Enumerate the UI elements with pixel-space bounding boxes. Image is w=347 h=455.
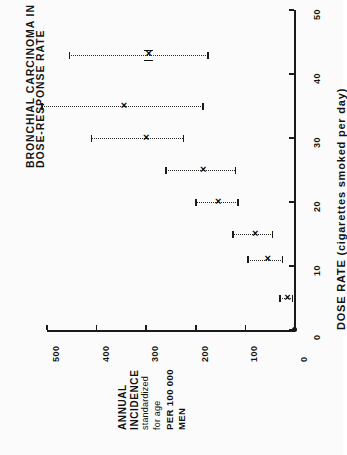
incidence-axis-title-line-6: MEN	[176, 408, 187, 430]
error-cap-lower	[165, 167, 167, 174]
dose-tick-label-0: 0	[312, 334, 322, 340]
incidence-tick-500	[46, 325, 48, 330]
error-cap-upper	[235, 167, 237, 174]
error-cap-lower	[232, 231, 234, 238]
incidence-tick-label-100: 100	[249, 345, 259, 362]
incidence-tick-label-200: 200	[200, 345, 210, 362]
dose-rate-axis-title: DOSE RATE (cigarettes smoked per day)	[335, 88, 347, 330]
incidence-tick-label-500: 500	[51, 345, 61, 362]
error-cap-lower	[41, 103, 43, 110]
dose-tick-10	[289, 265, 294, 267]
incidence-axis-line	[47, 330, 295, 332]
dose-tick-label-20: 20	[312, 201, 322, 212]
incidence-tick-label-400: 400	[101, 345, 111, 362]
error-cap-upper	[202, 103, 204, 110]
dose-tick-40	[289, 73, 294, 75]
dose-tick-50	[289, 9, 294, 11]
incidence-tick-200	[195, 325, 197, 330]
error-cap-lower	[195, 199, 197, 206]
error-bar	[69, 55, 208, 56]
dose-tick-30	[289, 137, 294, 139]
data-point-marker	[284, 294, 291, 301]
incidence-axis-title-line-1: ANNUAL	[117, 384, 128, 430]
data-point-marker	[143, 134, 150, 141]
incidence-axis-title-line-4: for age	[152, 401, 162, 430]
dose-tick-0	[289, 329, 294, 331]
error-cap-upper	[237, 199, 239, 206]
data-point-marker	[264, 255, 271, 262]
data-point-marker	[200, 166, 207, 173]
figure-title-line-2: BRONCHIAL CARCINOMA IN CIGARETTE SMOKERS	[24, 0, 36, 168]
data-point-marker	[145, 50, 152, 57]
error-cap-lower	[69, 52, 71, 59]
incidence-tick-label-300: 300	[150, 345, 160, 362]
dose-tick-label-40: 40	[312, 73, 322, 84]
incidence-tick-400	[96, 325, 98, 330]
incidence-axis-title-line-2: INCIDENCE	[129, 370, 140, 430]
dose-rate-axis-line	[294, 10, 296, 331]
dose-tick-label-10: 10	[312, 265, 322, 276]
dose-tick-label-30: 30	[312, 137, 322, 148]
incidence-tick-label-0: 0	[299, 356, 309, 362]
error-cap-upper	[207, 52, 209, 59]
error-cap-lower	[247, 256, 249, 263]
dose-tick-label-50: 50	[312, 9, 322, 20]
data-point-marker	[215, 198, 222, 205]
data-point-marker	[252, 230, 259, 237]
incidence-tick-100	[245, 325, 247, 330]
error-cap-upper	[292, 295, 294, 302]
error-bar	[92, 138, 184, 139]
error-cap-upper	[183, 135, 185, 142]
incidence-tick-0	[294, 325, 296, 330]
error-cap-upper	[272, 231, 274, 238]
data-point-marker	[120, 102, 127, 109]
dose-tick-20	[289, 201, 294, 203]
incidence-tick-300	[145, 325, 147, 330]
incidence-axis-title-line-5: PER 100 000	[164, 369, 175, 430]
error-cap-lower	[91, 135, 93, 142]
error-cap-lower	[279, 295, 281, 302]
error-cap-upper	[282, 256, 284, 263]
incidence-axis-title-line-3: standardized	[140, 376, 150, 430]
